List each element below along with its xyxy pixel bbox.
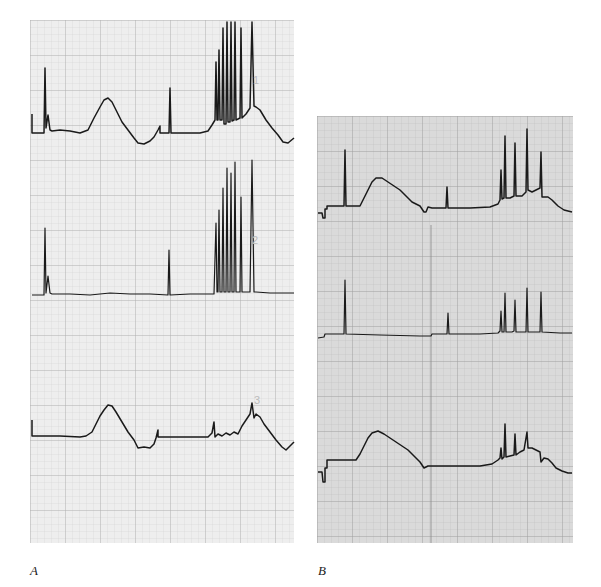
trace-label-1: 1 <box>253 74 259 86</box>
panel-label-b: B <box>318 563 326 579</box>
panel-a: 1 2 3 <box>30 20 294 543</box>
trace-label-3: 3 <box>254 394 260 406</box>
panel-b <box>317 116 573 543</box>
figure: 1 2 3 <box>0 0 601 587</box>
panel-label-a: A <box>30 563 38 579</box>
trace-label-2: 2 <box>252 234 258 246</box>
